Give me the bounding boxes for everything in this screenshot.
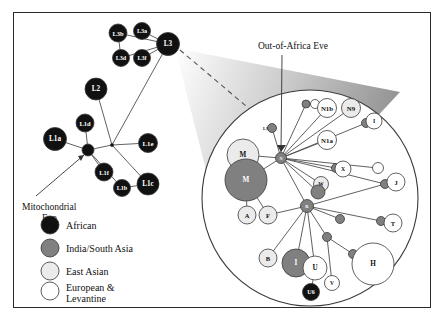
node-label: B (266, 255, 271, 262)
magnified-node-A: A (238, 206, 256, 224)
magnified-node-U: U (303, 256, 327, 280)
main-node-HUB (110, 143, 113, 146)
legend-item-european-levantine: European & Levantine (41, 282, 115, 304)
node-label: A (245, 212, 250, 219)
main-node-L3f: L3f (134, 50, 151, 67)
node-label: L3f (137, 55, 147, 61)
magnified-node-H: H (352, 243, 394, 285)
node-label: I (295, 259, 298, 267)
magnified-node-X: X (335, 161, 351, 177)
main-node-L1b: L1b (114, 180, 131, 197)
legend-swatch-african (41, 216, 59, 234)
figure-canvas: L3NMMAFN1bN9IN1aXJWRTBIUVHU6 L3bL3aL3dL3… (0, 0, 447, 330)
node-label: L1f (99, 169, 110, 176)
main-network-edges (55, 31, 168, 188)
legend: African India/South Asia East Asian Euro… (41, 216, 134, 304)
main-network-nodes: L3bL3aL3dL3fL3L2L1dL1aL1eL1fL1bL1c (44, 23, 180, 197)
node-label: M (243, 176, 250, 184)
node-label: H (370, 260, 376, 268)
node-label: L2 (92, 85, 101, 93)
network-diagram: L3NMMAFN1bN9IN1aXJWRTBIUVHU6 L3bL3aL3dL3… (0, 0, 447, 330)
magnified-node-T: T (384, 214, 402, 232)
node-label: L3a (137, 28, 147, 34)
magnified-node-Wd (311, 185, 325, 199)
legend-label-european-levantine-line1: European & (66, 282, 115, 293)
magnified-node-n1bA (302, 100, 310, 108)
magnified-node-U6: U6 (303, 284, 320, 301)
legend-item-african: African (41, 216, 97, 234)
node-label: N (279, 156, 282, 161)
magnified-node-F: F (259, 206, 277, 224)
node-label: N1a (321, 137, 333, 144)
node-label: U6 (307, 289, 314, 295)
magnified-node-N: N (276, 153, 287, 164)
legend-item-india-south-asia: India/South Asia (41, 239, 134, 257)
node-label: L3d (116, 55, 127, 61)
legend-swatch-india-south-asia (41, 239, 59, 257)
node-circle (311, 185, 325, 199)
node-label: L3 (263, 126, 268, 131)
magnified-node-Wh (373, 163, 384, 174)
main-node-L1c: L1c (137, 173, 159, 195)
node-label: V (330, 280, 334, 286)
node-label: N9 (347, 105, 356, 112)
main-node-L3b: L3b (109, 24, 127, 42)
node-label: L3b (112, 30, 124, 37)
node-label: L1d (79, 120, 91, 127)
legend-label-east-asian: East Asian (66, 266, 109, 277)
node-label: L1e (143, 140, 154, 147)
magnified-node-I: I (366, 113, 382, 129)
node-label: F (266, 212, 270, 219)
node-label: M (240, 151, 247, 159)
node-label: U (312, 264, 318, 272)
mito-eve-label-line1: Mitochondrial (22, 202, 77, 212)
legend-label-european-levantine-line2: Levantine (66, 293, 107, 304)
magnified-node-B: B (259, 249, 277, 267)
legend-swatch-european-levantine (41, 282, 59, 300)
node-label: L3 (164, 40, 173, 48)
magnified-node-N9: N9 (342, 99, 361, 118)
magnified-node-udot (323, 233, 332, 242)
legend-item-east-asian: East Asian (41, 262, 109, 280)
legend-label-african: African (66, 220, 97, 231)
node-circle (373, 163, 384, 174)
node-label: L1c (142, 180, 154, 188)
magnified-node-J: J (387, 173, 405, 191)
mitochondrial-eve-annotation: Mitochondrial Eve (22, 155, 84, 223)
main-node-L1e: L1e (139, 134, 158, 153)
main-node-L3: L3 (157, 33, 180, 56)
main-node-EVE (82, 144, 94, 156)
node-circle (323, 233, 332, 242)
main-node-L1f: L1f (95, 163, 113, 181)
node-label: T (391, 220, 396, 227)
magnified-node-M: M (225, 159, 267, 201)
node-circle (82, 144, 94, 156)
legend-label-india-south-asia: India/South Asia (66, 243, 134, 254)
magnified-node-N1b: N1b (318, 99, 337, 118)
main-node-L3a: L3a (134, 23, 151, 40)
magnified-node-rdot1 (336, 215, 345, 224)
node-circle (336, 215, 345, 224)
magnified-node-V: V (325, 276, 340, 291)
node-label: L1a (49, 135, 61, 143)
node-circle (268, 124, 277, 133)
node-circle (110, 143, 113, 146)
magnified-node-N1a: N1a (318, 131, 337, 150)
main-node-L2: L2 (85, 78, 107, 100)
legend-swatch-east-asian (41, 262, 59, 280)
magnified-node-R: R (301, 200, 314, 213)
node-circle (302, 100, 310, 108)
main-node-L3d: L3d (113, 50, 130, 67)
main-node-L1a: L1a (44, 128, 67, 151)
main-node-L1d: L1d (76, 114, 94, 132)
ooa-eve-label: Out-of-Africa Eve (258, 41, 328, 51)
node-label: L1b (117, 185, 128, 191)
node-label: N1b (321, 105, 333, 112)
